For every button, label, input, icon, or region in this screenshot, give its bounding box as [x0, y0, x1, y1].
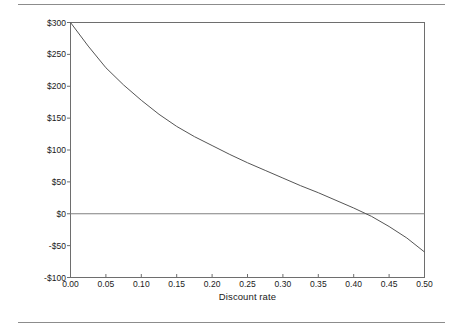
y-tick-label: $250 [32, 49, 66, 59]
x-axis-ticks [71, 274, 425, 278]
y-tick-label: $200 [32, 81, 66, 91]
plot-frame [71, 23, 425, 278]
y-axis-title: Net benefits [0, 137, 65, 151]
x-tick-label: 0.20 [192, 279, 232, 289]
x-tick-label: 0.50 [405, 279, 445, 289]
y-tick-label: $300 [32, 18, 66, 28]
y-tick-label: -$50 [32, 241, 66, 251]
x-tick-label: 0.30 [263, 279, 303, 289]
net-benefits-curve [71, 23, 425, 253]
x-axis-title: Discount rate [70, 291, 425, 302]
x-tick-label: 0.15 [157, 279, 197, 289]
x-tick-label: 0.40 [334, 279, 374, 289]
y-tick-label: $0 [32, 209, 66, 219]
y-tick-label: $150 [32, 113, 66, 123]
x-tick-label: 0.10 [121, 279, 161, 289]
x-tick-label: 0.35 [298, 279, 338, 289]
plot-area-wrapper: $300$250$200$150$100$50$0-$50-$100 0.000… [0, 0, 457, 331]
x-tick-label: 0.05 [86, 279, 126, 289]
x-tick-label: 0.25 [228, 279, 268, 289]
x-tick-label: 0.00 [51, 279, 91, 289]
figure-container: $300$250$200$150$100$50$0-$50-$100 0.000… [0, 0, 457, 331]
x-tick-label: 0.45 [369, 279, 409, 289]
y-tick-label: $50 [32, 177, 66, 187]
y-axis-ticks [67, 23, 71, 278]
